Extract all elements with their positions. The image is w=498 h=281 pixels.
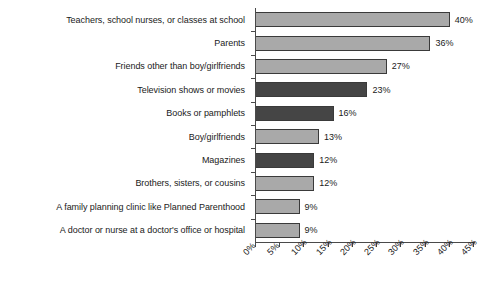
bar-row: 40% (256, 8, 474, 31)
category-label: Boy/girlfriends (189, 132, 250, 142)
bar-row: 13% (256, 125, 474, 148)
y-axis-tick (251, 148, 255, 149)
bar-row: 27% (256, 55, 474, 78)
bar-row: 23% (256, 78, 474, 101)
y-axis-tick (251, 102, 255, 103)
y-axis-tick (251, 195, 255, 196)
bar-chart: Teachers, school nurses, or classes at s… (0, 0, 498, 281)
bar-row: 36% (256, 31, 474, 54)
category-label-row: Parents (0, 31, 250, 54)
category-label-row: A doctor or nurse at a doctor's office o… (0, 219, 250, 242)
bar-value-label: 16% (339, 108, 357, 118)
bar-value-label: 40% (455, 15, 473, 25)
category-label: Friends other than boy/girlfriends (115, 61, 250, 71)
category-label-row: A family planning clinic like Planned Pa… (0, 195, 250, 218)
category-label-row: Books or pamphlets (0, 102, 250, 125)
category-label: Brothers, sisters, or cousins (135, 178, 250, 188)
category-label-row: Friends other than boy/girlfriends (0, 55, 250, 78)
y-axis-tick (251, 172, 255, 173)
bar (256, 223, 300, 238)
bar-row: 16% (256, 102, 474, 125)
bar (256, 129, 319, 144)
category-label-row: Teachers, school nurses, or classes at s… (0, 8, 250, 31)
category-label: Books or pamphlets (166, 108, 250, 118)
bar (256, 59, 387, 74)
bar (256, 176, 314, 191)
category-axis-labels: Teachers, school nurses, or classes at s… (0, 8, 250, 242)
category-label-row: Magazines (0, 148, 250, 171)
bar (256, 82, 367, 97)
category-label-row: Television shows or movies (0, 78, 250, 101)
bar (256, 36, 430, 51)
y-axis-tick (251, 219, 255, 220)
plot-area: 40%36%27%23%16%13%12%12%9%9% (256, 8, 474, 242)
bar-value-label: 9% (305, 225, 318, 235)
bar-value-label: 27% (392, 61, 410, 71)
category-label: Parents (214, 38, 250, 48)
bar-value-label: 9% (305, 202, 318, 212)
bar (256, 12, 450, 27)
bar-value-label: 12% (319, 178, 337, 188)
category-label: Television shows or movies (137, 85, 250, 95)
category-label: A family planning clinic like Planned Pa… (56, 202, 250, 212)
category-label-row: Brothers, sisters, or cousins (0, 172, 250, 195)
bar-value-label: 13% (324, 132, 342, 142)
bar-row: 9% (256, 195, 474, 218)
bar-row: 12% (256, 172, 474, 195)
category-label: Magazines (202, 155, 250, 165)
bar-row: 12% (256, 148, 474, 171)
y-axis-tick (251, 125, 255, 126)
y-axis-tick (251, 78, 255, 79)
category-label-row: Boy/girlfriends (0, 125, 250, 148)
bar (256, 199, 300, 214)
category-label: Teachers, school nurses, or classes at s… (66, 15, 250, 25)
y-axis-tick (251, 55, 255, 56)
y-axis-tick (251, 31, 255, 32)
bar-value-label: 12% (319, 155, 337, 165)
bar-value-label: 36% (435, 38, 453, 48)
bar-value-label: 23% (372, 85, 390, 95)
category-label: A doctor or nurse at a doctor's office o… (60, 225, 250, 235)
bar (256, 106, 334, 121)
bar-row: 9% (256, 219, 474, 242)
bar (256, 153, 314, 168)
